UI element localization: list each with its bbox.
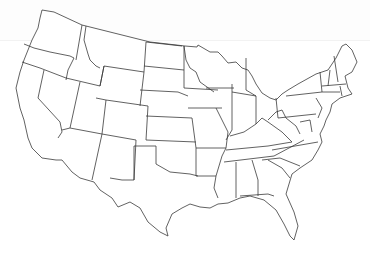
us-outline	[16, 10, 357, 240]
us-states-map	[0, 0, 370, 254]
